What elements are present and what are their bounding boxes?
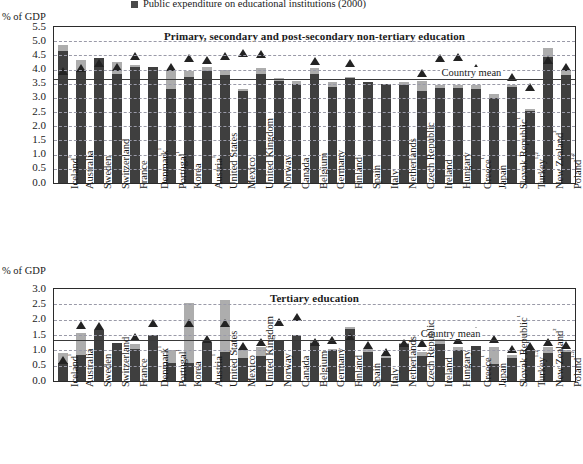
y-tick-label: 4.5 [0, 49, 46, 60]
x-tick-label: Belgium [318, 153, 329, 189]
x-tick-label: Czech Republic [425, 320, 436, 387]
y-axis-caption-bottom: % of GDP [2, 265, 46, 277]
x-axis-labels-primary-secondary: Iceland¹AustraliaSwedenSwitzerlandFrance… [53, 189, 576, 269]
x-tick-label: Netherlands [407, 138, 418, 189]
data-point-marker-triangle [94, 322, 104, 330]
x-tick-label: Sweden [102, 156, 113, 189]
x-tick-label: Austria¹ [210, 354, 224, 387]
bar-series-primary-secondary [54, 27, 575, 183]
x-tick-label: Mexico [246, 157, 257, 189]
y-tick-label: 5.0 [0, 35, 46, 46]
x-tick-label: New Zealand² [551, 131, 565, 189]
y-tick-label: 2.5 [0, 106, 46, 117]
x-tick-label: United States [228, 133, 239, 189]
country-mean-line [54, 79, 575, 80]
x-tick-label: Greece¹ [479, 157, 493, 189]
bar-group [363, 27, 373, 183]
y-tick-label: 3.0 [0, 91, 46, 102]
bar-group [381, 27, 391, 183]
x-tick-label: Iceland¹ [66, 354, 80, 387]
x-tick-label: Norway [282, 353, 293, 387]
data-point-marker-triangle [58, 67, 68, 75]
y-tick-label: 0.0 [0, 177, 46, 188]
gridline [54, 140, 575, 141]
data-point-marker-triangle [543, 56, 553, 64]
x-tick-label: Turkey¹·² [533, 351, 547, 387]
x-tick-label: New Zealand² [551, 329, 565, 387]
gridline [54, 55, 575, 56]
x-tick-label: Switzerland [120, 139, 131, 189]
x-tick-label: Korea [192, 163, 203, 189]
data-point-marker-triangle [310, 57, 320, 65]
y-tick-label: 1.5 [0, 329, 46, 340]
country-mean-label: Country mean [440, 67, 504, 78]
x-tick-label: Spain [371, 165, 382, 189]
x-tick-label: Ireland [443, 357, 454, 387]
x-tick-label: Mexico [246, 355, 257, 387]
data-point-marker-triangle [238, 342, 248, 350]
gridline [54, 350, 575, 351]
x-tick-label: France [138, 358, 149, 387]
x-tick-label: Hungary [461, 350, 472, 387]
data-point-marker-triangle [345, 59, 355, 67]
y-tick-label: 4.0 [0, 63, 46, 74]
x-tick-label: Denmark¹ [156, 346, 170, 387]
x-tick-label: Portugal¹ [174, 349, 188, 387]
x-tick-label: Italy [389, 170, 400, 189]
gridline [54, 98, 575, 99]
y-tick-label: 0.0 [0, 375, 46, 386]
x-tick-label: Slovak Republic¹ [515, 315, 529, 387]
x-tick-label: Finland [353, 157, 364, 189]
country-mean-line [54, 340, 575, 341]
y-tick-label: 1.0 [0, 344, 46, 355]
x-tick-label: Sweden [102, 354, 113, 387]
y-tick-label: 1.5 [0, 134, 46, 145]
x-tick-label: Slovak Republic¹ [515, 117, 529, 189]
gridline [54, 304, 575, 305]
x-tick-label: Italy [389, 368, 400, 387]
x-tick-label: Norway [282, 155, 293, 189]
data-point-marker-triangle [453, 53, 463, 61]
x-tick-label: Denmark¹ [156, 148, 170, 189]
x-tick-label: Germany [335, 348, 346, 387]
data-point-marker-triangle [363, 341, 373, 349]
x-tick-label: Portugal¹ [174, 151, 188, 189]
gridline [54, 320, 575, 321]
x-tick-label: Australia [84, 349, 95, 388]
x-tick-label: Spain [371, 363, 382, 387]
data-point-marker-triangle [76, 321, 86, 329]
x-tick-label: Hungary [461, 152, 472, 189]
y-tick-label: 3.0 [0, 283, 46, 294]
x-tick-label: Germany [335, 150, 346, 189]
x-tick-label: Japan [497, 165, 508, 189]
x-tick-label: Belgium [318, 351, 329, 387]
gridline [54, 112, 575, 113]
data-point-marker-triangle [76, 64, 86, 72]
y-tick-label: 1.0 [0, 148, 46, 159]
x-tick-label: Poland¹·² [569, 351, 583, 387]
y-tick-label: 2.0 [0, 313, 46, 324]
legend-swatch-icon [131, 1, 138, 8]
gridline [54, 335, 575, 336]
gridline [54, 126, 575, 127]
x-axis-labels-tertiary: Iceland¹AustraliaSwedenSwitzerlandFrance… [53, 387, 576, 464]
x-tick-label: Switzerland [120, 337, 131, 387]
x-tick-label: United Kingdom [264, 118, 275, 189]
gridline [54, 41, 575, 42]
x-tick-label: United Kingdom [264, 316, 275, 387]
x-tick-label: Austria¹ [210, 156, 224, 189]
x-tick-label: Poland¹·² [569, 153, 583, 189]
y-tick-label: 0.5 [0, 359, 46, 370]
data-point-marker-triangle [94, 59, 104, 67]
y-tick-label: 0.5 [0, 162, 46, 173]
x-tick-label: Greece¹ [479, 355, 493, 387]
y-tick-label: 3.5 [0, 77, 46, 88]
x-tick-label: Japan [497, 363, 508, 387]
chart-primary-secondary: Primary, secondary and post-secondary no… [53, 26, 576, 184]
y-tick-label: 2.0 [0, 120, 46, 131]
x-tick-label: Canada [300, 356, 311, 388]
chart-legend: Public expenditure on educational instit… [131, 0, 366, 10]
x-tick-label: Ireland [443, 159, 454, 189]
x-tick-label: Korea [192, 361, 203, 387]
gridline [54, 84, 575, 85]
